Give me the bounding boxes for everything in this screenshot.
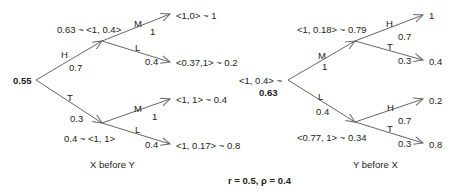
left-edge-prob: 1	[152, 112, 157, 122]
left-edge-label: L	[135, 43, 140, 53]
right-leaf: 1	[429, 11, 434, 21]
right-edge-label: H	[387, 103, 394, 113]
right-edge-label: T	[387, 42, 393, 52]
right-leaf: 0.4	[429, 57, 442, 67]
left-edge-label: L	[135, 125, 140, 135]
left-leaf: <1, 0.17> ~ 0.8	[176, 141, 240, 151]
left-edge-label: T	[67, 93, 73, 103]
right-edge-prob: 0.3	[398, 56, 411, 66]
left-edge-label: M	[134, 104, 142, 114]
left-root-value: 0.55	[13, 76, 32, 86]
left-edge-prob: 0.7	[69, 63, 82, 73]
right-root-value: 0.63	[259, 88, 278, 98]
right-lower-node-label: <0.77, 1> ~ 0.34	[297, 133, 366, 143]
left-leaf: <1,0> ~ 1	[176, 11, 216, 21]
left-leaf: <1, 1> ~ 0.4	[176, 95, 227, 105]
left-edge-label: H	[61, 50, 68, 60]
left-edge-prob: 0.4	[145, 140, 158, 150]
right-edge-label: H	[386, 19, 393, 29]
right-edge-prob: 1	[322, 62, 327, 72]
right-edge-prob: 0.7	[398, 116, 411, 126]
right-edge-label: M	[318, 51, 326, 61]
left-edge-prob: 0.4	[145, 57, 158, 67]
right-leaf: 0.2	[429, 96, 442, 106]
right-root-label: <1, 0.4> ~	[239, 76, 282, 86]
left-edge-label: M	[134, 19, 142, 29]
right-edge-label: T	[387, 124, 393, 134]
left-leaf: <0.37,1> ~ 0.2	[176, 58, 238, 68]
left-edge-prob: 0.3	[70, 114, 83, 124]
left-lower-node-label: 0.4 ~ <1, 1>	[64, 134, 115, 144]
right-edge-label: L	[318, 92, 323, 102]
caption: r = 0.5, ρ = 0.4	[228, 176, 291, 186]
edge-left-H	[36, 41, 102, 80]
right-tree-title: Y before X	[353, 160, 398, 170]
left-edge-prob: 1	[150, 27, 155, 37]
left-tree-title: X before Y	[90, 160, 135, 170]
right-upper-node-label: <1, 0.18> ~ 0.79	[297, 25, 366, 35]
right-edge-prob: 0.7	[398, 32, 411, 42]
right-edge-prob: 0.4	[316, 107, 329, 117]
right-leaf: 0.8	[429, 140, 442, 150]
right-edge-prob: 0.3	[398, 139, 411, 149]
left-upper-node-label: 0.63 ~ <1, 0.4>	[57, 25, 121, 35]
